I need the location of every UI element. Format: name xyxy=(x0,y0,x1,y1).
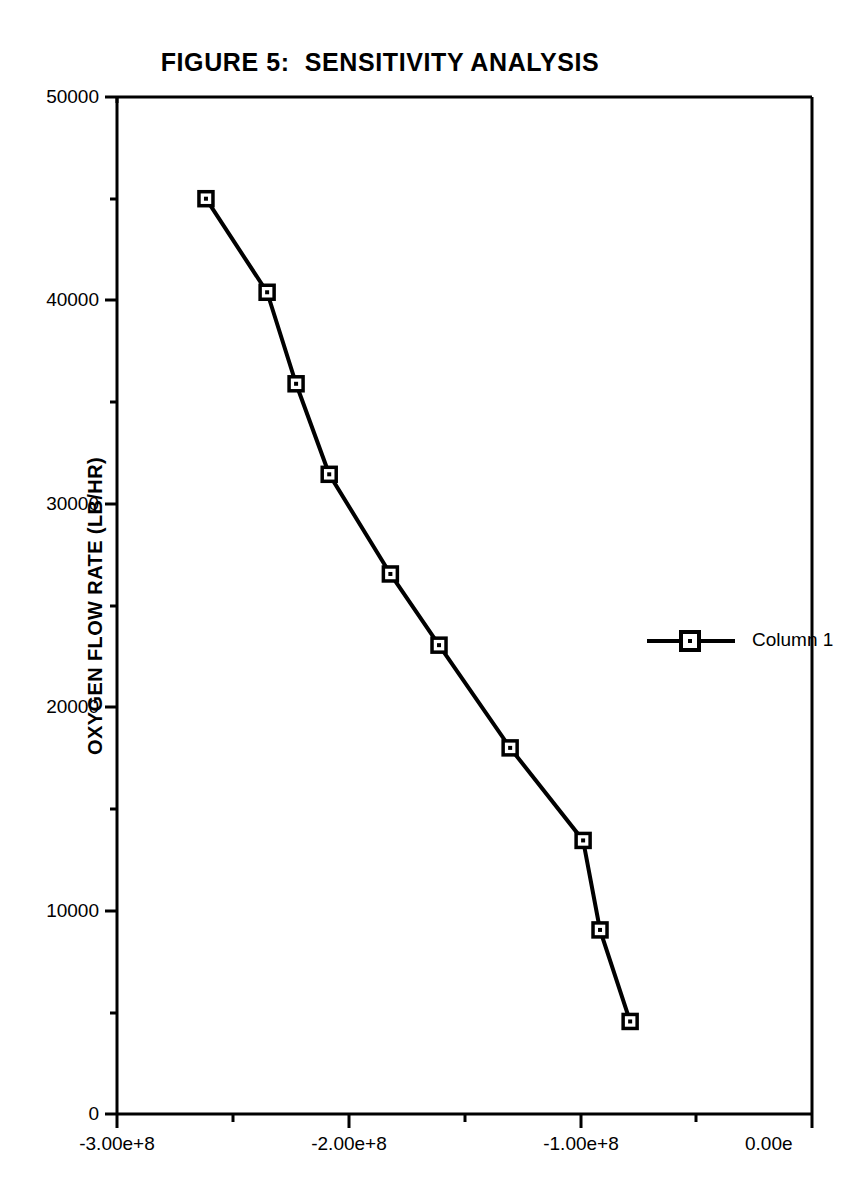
y-tick-label: 40000 xyxy=(0,289,99,311)
y-tick-label: 10000 xyxy=(0,900,99,922)
data-point-center xyxy=(598,928,602,932)
figure-container: FIGURE 5: SENSITIVITY ANALYSIS xyxy=(0,0,865,1194)
data-point-center xyxy=(265,290,269,294)
y-tick-label: 0 xyxy=(0,1103,99,1125)
data-point-center xyxy=(508,746,512,750)
x-tick-label: -1.00e+8 xyxy=(506,1133,656,1155)
data-point-center xyxy=(204,197,208,201)
plot-area xyxy=(0,0,865,1194)
data-point-center xyxy=(581,838,585,842)
legend: Column 1 xyxy=(645,623,845,659)
data-point-center xyxy=(388,572,392,576)
x-tick-label: 0.00e xyxy=(745,1133,855,1155)
x-tick-label: -2.00e+8 xyxy=(274,1133,424,1155)
x-tick-label: -3.00e+8 xyxy=(42,1133,192,1155)
legend-label: Column 1 xyxy=(752,629,833,651)
data-point-center xyxy=(294,382,298,386)
data-point-center xyxy=(327,472,331,476)
data-point-center xyxy=(437,643,441,647)
y-axis-title: OXYGEN FLOW RATE (LB/HR) xyxy=(84,457,107,755)
data-point-center xyxy=(628,1019,632,1023)
series-markers-column-1 xyxy=(199,192,637,1029)
series-line-column-1 xyxy=(206,199,630,1022)
legend-swatch-column-1 xyxy=(645,623,737,659)
y-tick-label: 50000 xyxy=(0,86,99,108)
